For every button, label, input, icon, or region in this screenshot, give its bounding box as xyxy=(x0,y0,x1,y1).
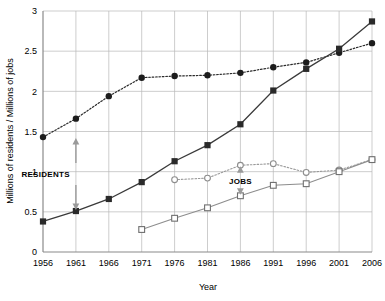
x-tick-label: 2006 xyxy=(362,258,382,268)
chart-background xyxy=(0,0,385,301)
x-axis-tick-labels: 1956196119661971197619811986199119962001… xyxy=(33,258,382,268)
data-point-residents-upper xyxy=(303,59,309,65)
data-point-jobs-upper xyxy=(172,177,178,183)
x-tick-label: 1996 xyxy=(296,258,316,268)
y-tick-label: 0.5 xyxy=(24,207,37,217)
y-tick-label: 3 xyxy=(32,6,37,16)
x-tick-label: 1971 xyxy=(132,258,152,268)
annotation-label: RESIDENTS xyxy=(21,170,70,179)
data-point-residents-upper xyxy=(270,64,276,70)
data-point-jobs-lower xyxy=(270,182,276,188)
data-point-residents-lower xyxy=(303,66,309,72)
data-point-residents-upper xyxy=(139,74,145,80)
annotation-label: JOBS xyxy=(229,177,252,186)
data-point-jobs-lower xyxy=(303,181,309,187)
data-point-residents-lower xyxy=(204,142,210,148)
y-tick-label: 0 xyxy=(32,247,37,257)
y-tick-label: 2.5 xyxy=(24,46,37,56)
x-tick-label: 1961 xyxy=(66,258,86,268)
line-chart: 00.511.522.53 19561961196619711976198119… xyxy=(0,0,385,301)
data-point-jobs-upper xyxy=(303,170,309,176)
data-point-residents-upper xyxy=(369,40,375,46)
chart-container: 00.511.522.53 19561961196619711976198119… xyxy=(0,0,385,301)
data-point-jobs-upper xyxy=(205,175,211,181)
data-point-jobs-lower xyxy=(369,157,375,163)
data-point-residents-upper xyxy=(237,70,243,76)
x-axis-title: Year xyxy=(199,282,217,292)
data-point-residents-lower xyxy=(237,121,243,127)
data-point-residents-lower xyxy=(270,87,276,93)
data-point-residents-lower xyxy=(40,218,46,224)
data-point-residents-upper xyxy=(171,73,177,79)
data-point-residents-upper xyxy=(204,72,210,78)
x-tick-label: 1976 xyxy=(165,258,185,268)
y-axis-title: Millions of residents / Millions of jobs xyxy=(5,58,15,204)
x-tick-label: 1986 xyxy=(230,258,250,268)
x-tick-label: 1956 xyxy=(33,258,53,268)
data-point-jobs-lower xyxy=(336,169,342,175)
x-tick-label: 1966 xyxy=(99,258,119,268)
y-tick-label: 1.5 xyxy=(24,127,37,137)
data-point-residents-lower xyxy=(369,18,375,24)
data-point-jobs-upper xyxy=(270,161,276,167)
data-point-jobs-lower xyxy=(205,205,211,211)
data-point-residents-upper xyxy=(73,115,79,121)
data-point-jobs-lower xyxy=(172,215,178,221)
x-tick-label: 1991 xyxy=(263,258,283,268)
x-tick-label: 1981 xyxy=(197,258,217,268)
data-point-jobs-lower xyxy=(139,227,145,233)
data-point-residents-upper xyxy=(40,134,46,140)
y-tick-label: 2 xyxy=(32,87,37,97)
data-point-residents-lower xyxy=(172,158,178,164)
data-point-residents-lower xyxy=(139,179,145,185)
data-point-residents-lower xyxy=(336,46,342,52)
x-tick-label: 2001 xyxy=(329,258,349,268)
data-point-residents-upper xyxy=(106,93,112,99)
data-point-residents-lower xyxy=(106,196,112,202)
